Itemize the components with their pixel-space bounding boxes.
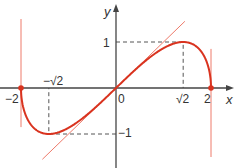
tick-label-neg-sqrt2: −√2: [43, 74, 64, 88]
tick-label-sqrt2: √2: [176, 92, 190, 106]
tick-label-origin: 0: [118, 92, 125, 106]
tick-label-y1: 1: [103, 36, 110, 50]
function-diagram: y x −2 −√2 0 √2 2 1 −1: [0, 0, 238, 168]
guide-max: [116, 42, 183, 88]
y-axis-arrow-icon: [113, 4, 119, 12]
y-axis-label: y: [103, 4, 112, 19]
tick-label-2: 2: [204, 92, 211, 106]
tick-label-neg2: −2: [5, 92, 19, 106]
endpoint-right: [208, 85, 214, 91]
x-axis-arrow-icon: [226, 85, 234, 91]
endpoint-left: [18, 85, 24, 91]
x-axis-label: x: [225, 92, 233, 107]
tick-label-yneg1: −1: [118, 126, 132, 140]
guide-min: [49, 88, 116, 134]
